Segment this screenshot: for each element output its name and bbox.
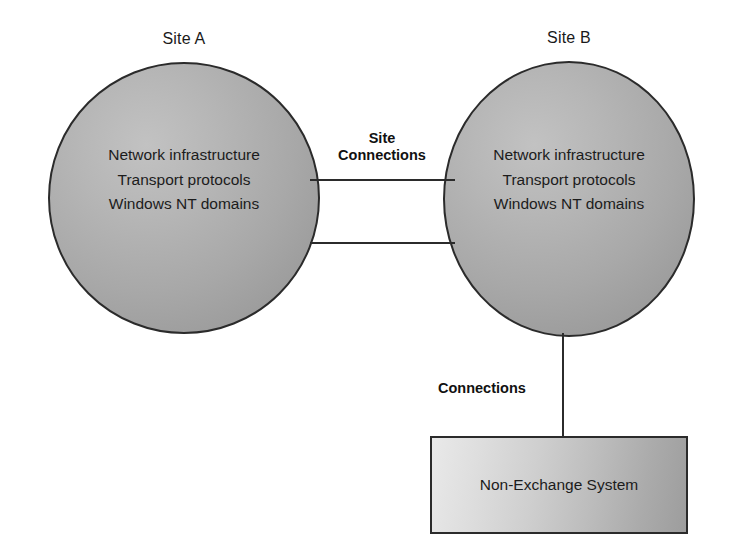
- site-b-line-2: Transport protocols: [443, 168, 695, 193]
- site-a-line-2: Transport protocols: [48, 168, 320, 193]
- site-connections-label: Site Connections: [322, 130, 442, 164]
- site-b-line-3: Windows NT domains: [443, 192, 695, 217]
- site-b-line-1: Network infrastructure: [443, 143, 695, 168]
- site-a-title: Site A: [48, 30, 320, 48]
- site-connections-label-line-1: Site: [322, 130, 442, 147]
- site-a-text-block: Network infrastructure Transport protoco…: [48, 143, 320, 217]
- site-a-line-3: Windows NT domains: [48, 192, 320, 217]
- site-a-line-1: Network infrastructure: [48, 143, 320, 168]
- site-connections-label-line-2: Connections: [322, 147, 442, 164]
- system-connection-line: [562, 333, 564, 437]
- diagram-canvas: Site A Network infrastructure Transport …: [0, 0, 730, 557]
- site-connections-line-top: [310, 179, 455, 181]
- system-connections-label: Connections: [438, 380, 556, 397]
- non-exchange-system-box: Non-Exchange System: [430, 436, 688, 534]
- site-b-text-block: Network infrastructure Transport protoco…: [443, 143, 695, 217]
- site-b-title: Site B: [443, 29, 695, 47]
- site-connections-line-bottom: [310, 242, 455, 244]
- non-exchange-system-label: Non-Exchange System: [480, 476, 639, 494]
